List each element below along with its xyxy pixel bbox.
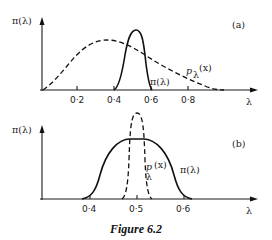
p-sub-b: λ <box>146 171 152 182</box>
x-label-b: λ <box>246 205 252 216</box>
solid-curve-b <box>82 139 192 199</box>
figure: 0·2 0·4 0·6 0·8 π(λ) λ (a) π(λ) p λ (x) … <box>0 0 272 240</box>
y-axis-arrow-icon <box>40 17 45 25</box>
figure-caption: Figure 6.2 <box>0 222 272 237</box>
p-label-a: p <box>186 65 192 76</box>
tick-a-0: 0·2 <box>70 95 84 105</box>
p-arg-b: (x) <box>154 159 167 170</box>
tick-b-0: 0·4 <box>82 204 97 214</box>
pi-label-a: π(λ) <box>150 76 170 87</box>
x-label-a: λ <box>246 96 252 107</box>
tick-b-2: 0·6 <box>176 204 191 214</box>
tick-a-3: 0·8 <box>181 95 196 105</box>
dashed-curve-a <box>43 40 224 90</box>
panel-tag-a: (a) <box>232 19 245 30</box>
panel-tag-b: (b) <box>232 138 246 149</box>
tick-a-2: 0·6 <box>144 95 159 105</box>
panel-a: 0·2 0·4 0·6 0·8 π(λ) λ (a) π(λ) p λ (x) <box>12 15 258 107</box>
pi-label-b: π(λ) <box>180 164 200 175</box>
tick-b-1: 0·5 <box>129 204 143 214</box>
dashed-curve-b <box>122 113 152 199</box>
panel-b: 0·4 0·5 0·6 π(λ) λ (b) π(λ) p λ (x) <box>12 113 258 216</box>
y-label-b: π(λ) <box>12 124 32 135</box>
tick-a-1: 0·4 <box>107 95 122 105</box>
y-axis-arrow-icon <box>40 125 45 133</box>
solid-curve-a <box>114 30 152 90</box>
y-label-a: π(λ) <box>12 15 32 26</box>
x-axis-arrow-icon <box>250 197 258 202</box>
x-axis-arrow-icon <box>250 88 258 93</box>
p-arg-a: (x) <box>199 62 212 73</box>
